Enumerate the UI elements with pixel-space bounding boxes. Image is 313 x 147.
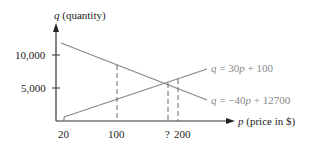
supply-line xyxy=(64,69,207,117)
x-tick-label-200: 200 xyxy=(174,128,191,140)
y-tick-label-5000: 5,000 xyxy=(21,82,46,94)
demand-equation: q = −40p + 12700 xyxy=(211,94,290,106)
y-axis-label: q (quantity) xyxy=(54,9,106,21)
y-tick-label-10000: 10,000 xyxy=(15,49,45,61)
x-label-text: (price in $) xyxy=(244,115,296,127)
y-axis-arrow-icon xyxy=(53,23,59,32)
eq1-text: = 30 xyxy=(217,62,240,74)
eq2-text: = −40 xyxy=(217,94,246,106)
supply-equation: q = 30p + 100 xyxy=(211,62,273,74)
x-axis-arrow-icon xyxy=(226,118,235,124)
x-tick-label-100: 100 xyxy=(108,128,125,140)
eq1-tail: + 100 xyxy=(245,62,273,74)
x-tick-label-unknown: ? xyxy=(165,128,170,140)
x-axis-label: p (price in $) xyxy=(238,115,295,127)
y-label-text: (quantity) xyxy=(60,9,106,21)
eq2-tail: + 12700 xyxy=(251,94,290,106)
demand-line xyxy=(61,43,207,100)
x-tick-label-20: 20 xyxy=(58,128,69,140)
